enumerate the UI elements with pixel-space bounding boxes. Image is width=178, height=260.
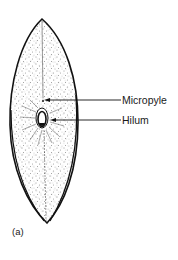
micropyle-mark xyxy=(42,100,44,102)
panel-label: (a) xyxy=(12,227,24,237)
seed-diagram xyxy=(0,0,178,260)
micropyle-label: Micropyle xyxy=(122,95,167,106)
hilum-label: Hilum xyxy=(122,115,149,126)
hilum-mark xyxy=(36,108,48,128)
